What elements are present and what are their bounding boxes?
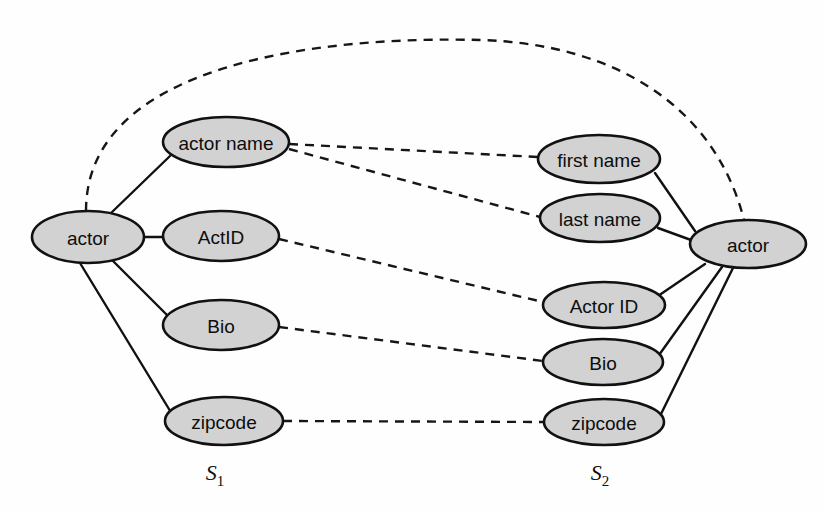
node-label-s2-zipcode: zipcode <box>571 413 637 434</box>
node-s1-zipcode[interactable]: zipcode <box>165 397 283 445</box>
node-s1-actor[interactable]: actor <box>32 211 144 263</box>
node-label-s2-first-name: first name <box>557 150 640 171</box>
node-s1-actid[interactable]: ActID <box>163 211 279 261</box>
schema-label-subscript-s1: 1 <box>217 473 225 489</box>
node-label-s1-zipcode: zipcode <box>191 412 257 433</box>
structural-edge-e-s1-bio <box>113 261 168 316</box>
node-s1-bio[interactable]: Bio <box>163 300 279 350</box>
node-s2-actor-id[interactable]: Actor ID <box>543 282 665 328</box>
structural-edge-e-s2-last-name <box>658 228 691 240</box>
node-label-s1-actor: actor <box>67 228 110 249</box>
node-label-s2-bio: Bio <box>589 353 616 374</box>
match-edge-m-bio-bio <box>279 327 543 361</box>
node-s2-bio[interactable]: Bio <box>543 339 663 385</box>
node-s2-zipcode[interactable]: zipcode <box>544 399 664 445</box>
match-edge-m-actorname-lastname <box>289 149 540 217</box>
node-s1-actor-name[interactable]: actor name <box>163 117 289 167</box>
schema-label-s2: S2 <box>591 460 610 489</box>
node-label-s2-last-name: last name <box>559 209 641 230</box>
diagram-canvas: actor nameActIDBiozipcodeactorfirst name… <box>0 0 825 513</box>
node-layer: actor nameActIDBiozipcodeactorfirst name… <box>32 117 806 445</box>
structural-edge-e-s1-zipcode <box>80 263 172 414</box>
structural-edge-e-s1-actor-name <box>110 156 170 214</box>
schema-label-subscript-s2: 2 <box>602 473 610 489</box>
node-label-s1-actid: ActID <box>198 227 244 248</box>
node-label-s1-actor-name: actor name <box>178 133 273 154</box>
match-edge-m-actid-actorid <box>279 239 543 302</box>
structural-edge-e-s2-actor-id <box>658 264 705 296</box>
schema-label-layer: S1S2 <box>206 460 610 489</box>
node-s2-first-name[interactable]: first name <box>538 135 660 183</box>
node-label-s1-bio: Bio <box>207 316 234 337</box>
schema-matching-diagram: actor nameActIDBiozipcodeactorfirst name… <box>0 0 825 513</box>
node-s2-actor[interactable]: actor <box>690 220 806 268</box>
structural-edge-e-s2-first-name <box>655 173 695 231</box>
node-s2-last-name[interactable]: last name <box>540 194 660 242</box>
match-edge-m-actorname-firstname <box>289 144 538 157</box>
schema-label-s1: S1 <box>206 460 225 489</box>
match-edge-m-zipcode-zipcode <box>283 421 544 422</box>
structural-edge-e-s2-zipcode <box>660 268 733 416</box>
node-label-s2-actor: actor <box>727 235 770 256</box>
node-label-s2-actor-id: Actor ID <box>570 296 639 317</box>
